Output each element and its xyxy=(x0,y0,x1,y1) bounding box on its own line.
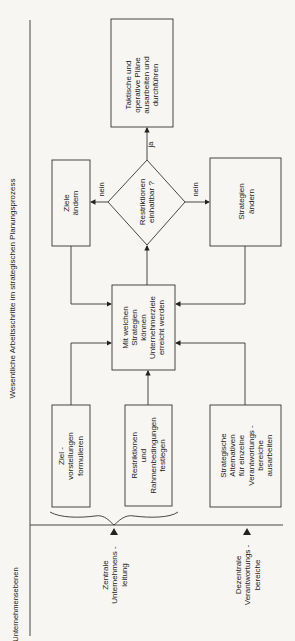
box-zielvorstellungen: Ziel - vorstellungen formulieren xyxy=(52,405,90,507)
level-label-central: Zentrale Unternehmens - leitung xyxy=(95,540,135,610)
edge-label-nein-left: nein xyxy=(97,182,106,196)
levels-heading: Unternehmensebenen xyxy=(11,567,20,641)
flowchart-canvas: Wesentliche Arbeitsschritte im strategis… xyxy=(0,0,295,641)
edge-label-ja: ja xyxy=(146,142,155,148)
box-ziele-aendern: Ziele ändern xyxy=(52,160,90,246)
box-restriktionen: Restriktionen und Rahmenbedingungen fest… xyxy=(125,405,172,506)
box-central-question: Mit welchen Strategien können Unternehme… xyxy=(112,285,175,370)
decision-restriktionen: Restriktionen einhaltbar ? xyxy=(132,169,162,235)
diagram-title: Wesentliche Arbeitsschritte im strategis… xyxy=(8,139,17,439)
box-taktische-plaene: Taktische und operative Pläne ausarbeite… xyxy=(111,31,173,139)
box-strategische-alternativen: Strategische Alternativen für einzelne V… xyxy=(211,405,282,507)
edge-label-nein-right: nein xyxy=(191,182,200,196)
level-label-decentral: Dezentrale Verantwortungs - bereiche xyxy=(228,540,268,610)
box-strategien-aendern: Strategien ändern xyxy=(211,158,282,246)
